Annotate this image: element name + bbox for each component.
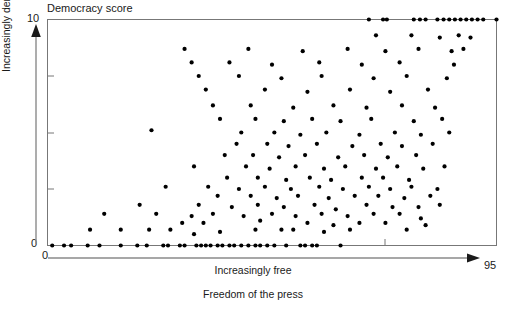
data-point [102, 212, 106, 216]
data-point [263, 185, 267, 189]
data-point [149, 128, 153, 132]
data-point [405, 74, 409, 78]
data-point [270, 212, 274, 216]
data-point [445, 76, 449, 80]
data-point [182, 243, 186, 247]
data-point [208, 243, 212, 247]
data-point [343, 164, 347, 168]
data-point [310, 117, 314, 121]
data-point [315, 142, 319, 146]
data-point [232, 243, 236, 247]
data-point [263, 87, 267, 91]
data-point [367, 185, 371, 189]
data-point [350, 144, 354, 148]
data-point [242, 214, 246, 218]
data-point [258, 219, 262, 223]
data-point [138, 203, 142, 207]
data-point [435, 17, 439, 21]
data-point [398, 212, 402, 216]
data-point [458, 17, 462, 21]
data-point [388, 187, 392, 191]
plot-frame [48, 20, 497, 246]
data-point [256, 176, 260, 180]
data-point [272, 243, 276, 247]
data-point [164, 185, 168, 189]
data-point [360, 176, 364, 180]
data-point [246, 243, 250, 247]
data-point [88, 228, 92, 232]
data-point [197, 74, 201, 78]
data-point [393, 130, 397, 134]
data-point [265, 243, 269, 247]
data-point [418, 17, 422, 21]
data-point [284, 178, 288, 182]
data-point [190, 60, 194, 64]
data-point [390, 205, 394, 209]
data-point [398, 60, 402, 64]
data-point [199, 243, 203, 247]
data-point [381, 176, 385, 180]
data-point [419, 133, 423, 137]
data-point [464, 17, 468, 21]
data-point [329, 178, 333, 182]
data-point [97, 243, 101, 247]
data-point [481, 17, 485, 21]
data-point [192, 232, 196, 236]
data-point [419, 216, 423, 220]
data-point [216, 194, 220, 198]
data-point [433, 106, 437, 110]
data-point [331, 223, 335, 227]
data-point [431, 142, 435, 146]
data-point [296, 194, 300, 198]
data-point [334, 207, 338, 211]
data-point [204, 243, 208, 247]
data-point [201, 221, 205, 225]
data-point [294, 164, 298, 168]
data-point [249, 194, 253, 198]
data-point [414, 153, 418, 157]
data-point [270, 63, 274, 67]
data-point [194, 243, 198, 247]
data-point [453, 17, 457, 21]
data-point [192, 164, 196, 168]
data-point [353, 194, 357, 198]
scatter-plot-canvas [0, 0, 506, 313]
data-point [282, 205, 286, 209]
data-point [424, 17, 428, 21]
data-point [383, 49, 387, 53]
data-points-layer [50, 17, 498, 247]
data-point [376, 194, 380, 198]
data-point [178, 243, 182, 247]
data-point [364, 106, 368, 110]
data-point [289, 187, 293, 191]
data-point [291, 228, 295, 232]
data-point [154, 212, 158, 216]
data-point [204, 87, 208, 91]
data-point [405, 228, 409, 232]
data-point [180, 221, 184, 225]
data-point [317, 60, 321, 64]
data-point [249, 103, 253, 107]
data-point [470, 17, 474, 21]
data-point [237, 187, 241, 191]
data-point [369, 117, 373, 121]
data-point [494, 17, 498, 21]
data-point [211, 212, 215, 216]
data-point [253, 117, 257, 121]
data-point [119, 243, 123, 247]
data-point [220, 243, 224, 247]
data-point [438, 203, 442, 207]
y-axis-ticks [48, 76, 55, 189]
data-point [367, 17, 371, 21]
data-point [227, 243, 231, 247]
data-point [223, 153, 227, 157]
data-point [308, 176, 312, 180]
data-point [400, 144, 404, 148]
data-point [317, 185, 321, 189]
data-point [409, 33, 413, 37]
data-point [135, 243, 139, 247]
data-point [320, 212, 324, 216]
data-point [265, 142, 269, 146]
data-point [395, 164, 399, 168]
data-point [362, 153, 366, 157]
